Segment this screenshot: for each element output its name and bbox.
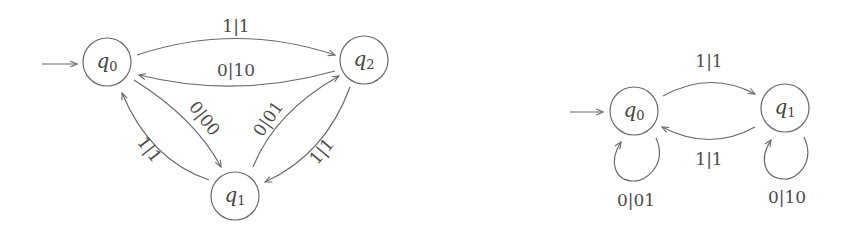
self-loop-q0 [614,138,659,181]
state-subscript: 2 [366,57,374,72]
transition-label: 1|1 [305,134,338,168]
transition-label: 0|01 [249,97,287,140]
transition-label: 0|10 [768,187,806,207]
state-q1: q1 [761,84,809,132]
state-subscript: 1 [237,193,245,208]
transition-q0-q1 [663,82,755,96]
state-q2: q2 [340,36,388,84]
transition-label: 1|1 [695,51,722,71]
transition-label: 0|10 [217,60,255,80]
state-q1: q1 [211,172,259,220]
three-state-transducer: 1|1 0|10 0|00 1|1 0|01 1|1 q0 q2 q1 [42,16,388,220]
state-subscript: 0 [636,108,644,123]
transition-q2-q1 [265,87,350,182]
diagram-canvas: 1|1 0|10 0|00 1|1 0|01 1|1 q0 q2 q1 [0,0,846,232]
state-q0: q0 [83,38,131,86]
state-subscript: 1 [787,105,795,120]
transition-label: 1|1 [133,132,166,166]
state-name: q [96,49,109,73]
transition-q1-q0 [662,127,755,140]
transition-label: 0|00 [185,97,224,139]
state-name: q [774,95,787,119]
transition-label: 1|1 [695,149,722,169]
state-name: q [623,98,636,122]
transition-label: 1|1 [222,16,249,36]
transition-q0-q2 [137,39,335,56]
state-q0: q0 [610,87,658,135]
state-name: q [353,47,366,71]
state-subscript: 0 [109,59,117,74]
transition-label: 0|01 [617,190,655,210]
self-loop-q1 [764,137,807,179]
state-name: q [224,183,237,207]
two-state-transducer: 1|1 1|1 0|01 0|10 q0 q1 [570,51,809,210]
